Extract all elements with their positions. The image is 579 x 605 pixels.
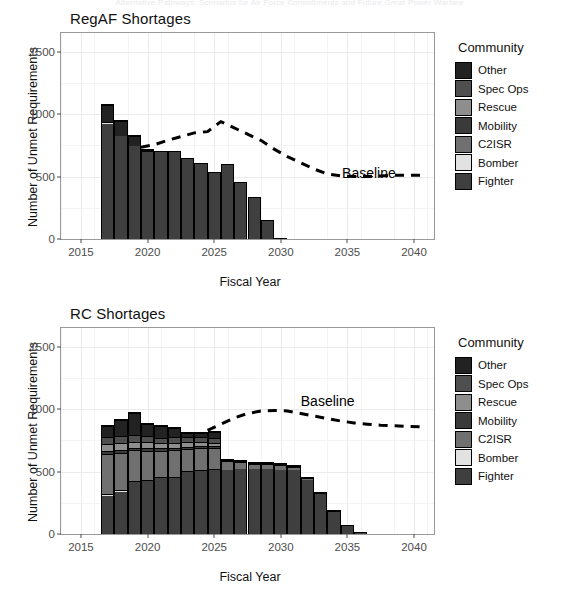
legend-swatch-icon bbox=[455, 468, 472, 485]
x-axis-tick-label: 2040 bbox=[401, 246, 427, 258]
baseline-series-regaf bbox=[61, 33, 434, 239]
x-axis-tick-mark bbox=[147, 534, 148, 538]
figure-page: Alternative Pathways: Scenarios for Air … bbox=[0, 0, 579, 605]
y-axis-tick-label: 1000 bbox=[29, 108, 55, 120]
x-axis-tick-mark bbox=[347, 239, 348, 243]
legend-item-label: Bomber bbox=[478, 452, 518, 464]
legend-item-rescue[interactable]: Rescue bbox=[455, 393, 575, 412]
legend-item-fighter[interactable]: Fighter bbox=[455, 172, 575, 191]
chart-panel-rc: RC Shortages Number of Unmet Requirement… bbox=[0, 305, 579, 600]
y-axis-tick-label: 500 bbox=[36, 466, 55, 478]
x-axis-tick-mark bbox=[414, 239, 415, 243]
legend-swatch-icon bbox=[455, 136, 472, 153]
legend-item-label: Rescue bbox=[478, 101, 517, 113]
legend-swatch-icon bbox=[455, 357, 472, 374]
chart-title-rc: RC Shortages bbox=[70, 305, 165, 322]
x-axis-tick-label: 2025 bbox=[201, 246, 227, 258]
plot-area-regaf: 201520202025203020352040050010001500Base… bbox=[60, 32, 435, 240]
legend-item-mobility[interactable]: Mobility bbox=[455, 117, 575, 136]
legend-swatch-icon bbox=[455, 80, 472, 97]
x-axis-tick-mark bbox=[147, 239, 148, 243]
legend-item-mobility[interactable]: Mobility bbox=[455, 412, 575, 431]
legend-item-label: C2ISR bbox=[478, 138, 512, 150]
legend-item-spec-ops[interactable]: Spec Ops bbox=[455, 80, 575, 99]
x-axis-tick-label: 2030 bbox=[268, 246, 294, 258]
legend-item-c2isr[interactable]: C2ISR bbox=[455, 135, 575, 154]
y-axis-label-regaf: Number of Unmet Requirements bbox=[26, 32, 40, 242]
legend-swatch-icon bbox=[455, 412, 472, 429]
legend-title: Community bbox=[455, 40, 575, 55]
legend-swatch-icon bbox=[455, 117, 472, 134]
y-axis-tick-label: 1500 bbox=[29, 341, 55, 353]
legend-swatch-icon bbox=[455, 173, 472, 190]
x-axis-tick-label: 2030 bbox=[268, 541, 294, 553]
x-axis-tick-label: 2035 bbox=[335, 541, 361, 553]
x-axis-tick-label: 2035 bbox=[335, 246, 361, 258]
x-axis-tick-label: 2020 bbox=[135, 246, 161, 258]
x-axis-tick-mark bbox=[347, 534, 348, 538]
cropped-running-header: Alternative Pathways: Scenarios for Air … bbox=[0, 0, 579, 7]
legend-title: Community bbox=[455, 335, 575, 350]
legend-item-label: Mobility bbox=[478, 120, 517, 132]
legend-swatch-icon bbox=[455, 375, 472, 392]
y-axis-tick-label: 1000 bbox=[29, 403, 55, 415]
x-axis-tick-mark bbox=[80, 239, 81, 243]
x-axis-tick-label: 2040 bbox=[401, 541, 427, 553]
x-axis-tick-mark bbox=[280, 534, 281, 538]
legend-swatch-icon bbox=[455, 154, 472, 171]
legend-item-label: C2ISR bbox=[478, 433, 512, 445]
x-axis-tick-mark bbox=[214, 239, 215, 243]
legend-item-rescue[interactable]: Rescue bbox=[455, 98, 575, 117]
legend-item-other[interactable]: Other bbox=[455, 356, 575, 375]
y-axis-tick-label: 1500 bbox=[29, 46, 55, 58]
legend-item-label: Spec Ops bbox=[478, 378, 529, 390]
legend-item-label: Other bbox=[478, 359, 507, 371]
legend-item-other[interactable]: Other bbox=[455, 61, 575, 80]
legend-swatch-icon bbox=[455, 99, 472, 116]
legend-item-label: Rescue bbox=[478, 396, 517, 408]
x-axis-tick-mark bbox=[414, 534, 415, 538]
baseline-series-rc bbox=[61, 328, 434, 534]
legend-item-label: Fighter bbox=[478, 470, 514, 482]
legend-item-label: Mobility bbox=[478, 415, 517, 427]
legend-item-bomber[interactable]: Bomber bbox=[455, 154, 575, 173]
chart-title-regaf: RegAF Shortages bbox=[70, 10, 191, 27]
baseline-annotation-label: Baseline bbox=[342, 165, 396, 181]
x-axis-label-rc: Fiscal Year bbox=[60, 570, 440, 584]
x-axis-tick-mark bbox=[214, 534, 215, 538]
x-axis-tick-label: 2025 bbox=[201, 541, 227, 553]
legend-item-spec-ops[interactable]: Spec Ops bbox=[455, 375, 575, 394]
chart-panel-regaf: RegAF Shortages Number of Unmet Requirem… bbox=[0, 10, 579, 305]
y-axis-tick-label: 0 bbox=[49, 233, 55, 245]
legend-item-bomber[interactable]: Bomber bbox=[455, 449, 575, 468]
legend-rc: Community OtherSpec OpsRescueMobilityC2I… bbox=[455, 335, 575, 486]
legend-item-label: Bomber bbox=[478, 157, 518, 169]
legend-item-label: Fighter bbox=[478, 175, 514, 187]
y-axis-tick-label: 0 bbox=[49, 528, 55, 540]
x-axis-tick-label: 2015 bbox=[68, 246, 94, 258]
legend-item-label: Other bbox=[478, 64, 507, 76]
legend-swatch-icon bbox=[455, 394, 472, 411]
x-axis-tick-label: 2020 bbox=[135, 541, 161, 553]
x-axis-tick-mark bbox=[280, 239, 281, 243]
plot-area-rc: 201520202025203020352040050010001500Base… bbox=[60, 327, 435, 535]
legend-swatch-icon bbox=[455, 431, 472, 448]
baseline-line bbox=[208, 410, 421, 430]
legend-item-c2isr[interactable]: C2ISR bbox=[455, 430, 575, 449]
legend-regaf: Community OtherSpec OpsRescueMobilityC2I… bbox=[455, 40, 575, 191]
x-axis-tick-label: 2015 bbox=[68, 541, 94, 553]
legend-swatch-icon bbox=[455, 449, 472, 466]
x-axis-label-regaf: Fiscal Year bbox=[60, 275, 440, 289]
y-axis-tick-label: 500 bbox=[36, 171, 55, 183]
baseline-annotation-label: Baseline bbox=[301, 393, 355, 409]
legend-swatch-icon bbox=[455, 62, 472, 79]
legend-item-fighter[interactable]: Fighter bbox=[455, 467, 575, 486]
legend-item-label: Spec Ops bbox=[478, 83, 529, 95]
x-axis-tick-mark bbox=[80, 534, 81, 538]
y-axis-label-rc: Number of Unmet Requirements bbox=[26, 327, 40, 537]
